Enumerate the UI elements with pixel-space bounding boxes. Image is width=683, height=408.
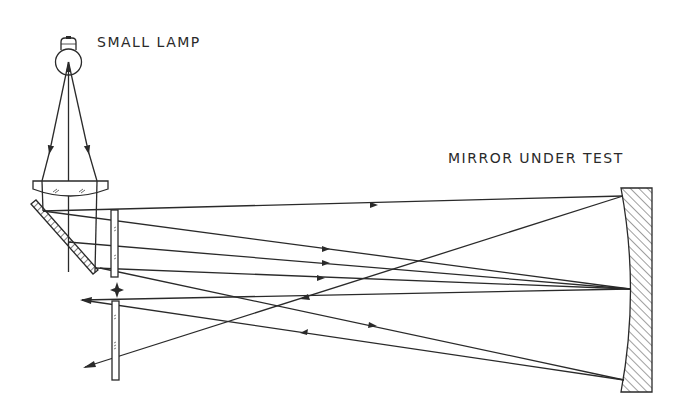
diagonal-mirror [31, 200, 98, 274]
pinhole-star-icon [110, 282, 124, 298]
mirror-under-test [621, 188, 652, 392]
return-rays [80, 196, 630, 380]
mirror-under-test-label: MIRROR UNDER TEST [448, 150, 624, 166]
upper-glass-plate [111, 210, 118, 277]
lower-glass-plate [112, 301, 119, 380]
optical-test-diagram: SMALL LAMP MIRROR UNDER TEST [0, 0, 683, 408]
small-lamp-label: SMALL LAMP [97, 34, 201, 50]
